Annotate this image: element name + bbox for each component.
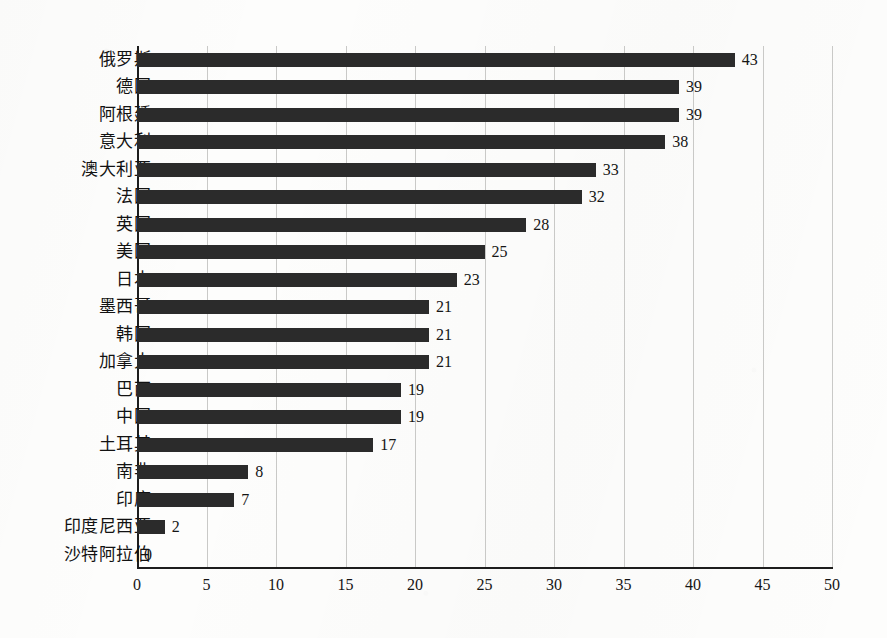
bar-row: 日本23 — [137, 266, 887, 294]
x-tick-label: 45 — [743, 576, 783, 594]
bar-value-label: 21 — [429, 293, 452, 321]
bar-chart: 俄罗斯43德国39阿根廷39意大利38澳大利亚33法国32英国28美国25日本2… — [0, 0, 887, 638]
bar-value-label: 0 — [137, 541, 152, 569]
category-label: 印度 — [0, 486, 151, 514]
x-tick-label: 10 — [256, 576, 296, 594]
bar — [137, 218, 526, 232]
bar — [137, 53, 735, 67]
bar-row: 墨西哥21 — [137, 293, 887, 321]
bar-value-label: 39 — [679, 101, 702, 129]
bar-value-label: 25 — [485, 238, 508, 266]
bar-value-label: 19 — [401, 403, 424, 431]
bar-row: 澳大利亚33 — [137, 156, 887, 184]
bar — [137, 300, 429, 314]
category-label: 韩国 — [0, 321, 151, 349]
bar — [137, 328, 429, 342]
bar-value-label: 38 — [665, 128, 688, 156]
bar-value-label: 7 — [234, 486, 249, 514]
bar — [137, 465, 248, 479]
bar-value-label: 43 — [735, 46, 758, 74]
bar-row: 印度7 — [137, 486, 887, 514]
bar-value-label: 32 — [582, 183, 605, 211]
category-label: 中国 — [0, 403, 151, 431]
category-label: 土耳其 — [0, 431, 151, 459]
bar — [137, 190, 582, 204]
x-tick-label: 50 — [812, 576, 852, 594]
bar-value-label: 19 — [401, 376, 424, 404]
bar-row: 巴西19 — [137, 376, 887, 404]
bar-row: 阿根廷39 — [137, 101, 887, 129]
bar-row: 英国28 — [137, 211, 887, 239]
x-tick-label: 0 — [117, 576, 157, 594]
bar — [137, 273, 457, 287]
category-label: 沙特阿拉伯 — [0, 541, 151, 569]
bar — [137, 520, 165, 534]
category-label: 意大利 — [0, 128, 151, 156]
bar-value-label: 2 — [165, 513, 180, 541]
category-label: 印度尼西亚 — [0, 513, 151, 541]
bar — [137, 355, 429, 369]
bar-row: 意大利38 — [137, 128, 887, 156]
bar — [137, 135, 665, 149]
category-label: 加拿大 — [0, 348, 151, 376]
x-tick-label: 20 — [395, 576, 435, 594]
category-label: 美国 — [0, 238, 151, 266]
plot-area: 俄罗斯43德国39阿根廷39意大利38澳大利亚33法国32英国28美国25日本2… — [137, 46, 832, 568]
category-label: 德国 — [0, 73, 151, 101]
x-axis-line — [137, 567, 833, 569]
bar-row: 韩国21 — [137, 321, 887, 349]
x-tick-label: 5 — [187, 576, 227, 594]
category-label: 俄罗斯 — [0, 46, 151, 74]
bar — [137, 108, 679, 122]
bar-row: 中国19 — [137, 403, 887, 431]
bar — [137, 410, 401, 424]
x-tick-label: 30 — [534, 576, 574, 594]
bar — [137, 245, 485, 259]
bar-row: 南非8 — [137, 458, 887, 486]
bar-row: 俄罗斯43 — [137, 46, 887, 74]
x-tick-label: 35 — [604, 576, 644, 594]
category-label: 日本 — [0, 266, 151, 294]
bar-row: 法国32 — [137, 183, 887, 211]
bar-value-label: 33 — [596, 156, 619, 184]
bar-value-label: 39 — [679, 73, 702, 101]
category-label: 阿根廷 — [0, 101, 151, 129]
bar-value-label: 21 — [429, 348, 452, 376]
bar-row: 美国25 — [137, 238, 887, 266]
category-label: 英国 — [0, 211, 151, 239]
bar-value-label: 17 — [373, 431, 396, 459]
bar — [137, 383, 401, 397]
bar-row: 德国39 — [137, 73, 887, 101]
category-label: 南非 — [0, 458, 151, 486]
category-label: 澳大利亚 — [0, 156, 151, 184]
bar-row: 加拿大21 — [137, 348, 887, 376]
bar-row: 印度尼西亚2 — [137, 513, 887, 541]
category-label: 墨西哥 — [0, 293, 151, 321]
bar-value-label: 21 — [429, 321, 452, 349]
bar-row: 沙特阿拉伯0 — [137, 541, 887, 569]
x-tick-label: 40 — [673, 576, 713, 594]
bar — [137, 438, 373, 452]
bar — [137, 80, 679, 94]
category-label: 巴西 — [0, 376, 151, 404]
bar-value-label: 28 — [526, 211, 549, 239]
bar-value-label: 23 — [457, 266, 480, 294]
x-tick-label: 25 — [465, 576, 505, 594]
bar — [137, 163, 596, 177]
bar — [137, 493, 234, 507]
category-label: 法国 — [0, 183, 151, 211]
x-tick-label: 15 — [326, 576, 366, 594]
bar-value-label: 8 — [248, 458, 263, 486]
bar-row: 土耳其17 — [137, 431, 887, 459]
